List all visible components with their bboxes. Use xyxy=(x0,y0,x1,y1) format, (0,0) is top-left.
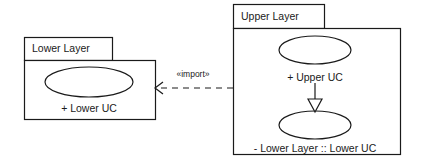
import-stereotype-label: «import» xyxy=(176,70,209,79)
use-case-lower-uc-ellipse[interactable] xyxy=(45,67,133,97)
import-dependency-connector[interactable] xyxy=(155,82,233,94)
package-lower-layer-name: Lower Layer xyxy=(32,43,90,54)
use-case-imported-lower-uc-ellipse[interactable] xyxy=(279,111,351,139)
use-case-upper-uc-ellipse[interactable] xyxy=(279,36,351,64)
package-upper-layer-name: Upper Layer xyxy=(241,11,299,22)
use-case-imported-lower-uc-label: - Lower Layer :: Lower UC xyxy=(254,143,377,154)
use-case-lower-uc-label: + Lower UC xyxy=(61,103,117,114)
diagram-canvas xyxy=(0,0,421,164)
use-case-upper-uc-label: + Upper UC xyxy=(287,72,343,83)
uml-package-diagram: Lower Layer + Lower UC Upper Layer + Upp… xyxy=(0,0,421,164)
